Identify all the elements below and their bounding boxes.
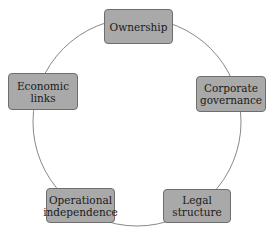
node-label: Economic links xyxy=(17,80,69,104)
node-operational-independence: Operational independence xyxy=(46,188,115,223)
node-label: Ownership xyxy=(110,21,168,33)
node-label: Legal structure xyxy=(172,194,222,218)
node-economic-links: Economic links xyxy=(8,73,78,110)
node-legal-structure: Legal structure xyxy=(163,189,231,223)
node-label: Operational independence xyxy=(43,194,118,218)
node-label: Corporate governance xyxy=(200,82,262,106)
node-corporate-governance: Corporate governance xyxy=(196,76,266,112)
node-ownership: Ownership xyxy=(104,9,173,44)
